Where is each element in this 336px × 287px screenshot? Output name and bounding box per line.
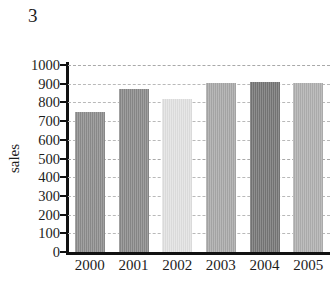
y-axis-tick <box>60 214 67 216</box>
gridline <box>68 84 330 85</box>
y-axis-tick <box>60 120 67 122</box>
x-axis-tick-label: 2003 <box>199 257 243 274</box>
bar-chart-figure: sales 01002003004005006007008009001000 2… <box>0 0 336 287</box>
y-axis-tick-label: 800 <box>0 95 60 110</box>
gridline <box>68 140 330 141</box>
x-axis-tick-label: 2002 <box>155 257 199 274</box>
x-axis-tick-labels: 200020012002200320042005 <box>68 257 330 283</box>
y-axis-tick-label: 500 <box>0 151 60 166</box>
gridline <box>68 159 330 160</box>
x-axis-tick-label: 2001 <box>112 257 156 274</box>
y-axis-tick <box>60 139 67 141</box>
bar <box>75 112 105 252</box>
x-axis-line <box>66 252 330 255</box>
y-axis-tick <box>60 176 67 178</box>
plot-area <box>68 65 330 252</box>
y-axis-tick-label: 100 <box>0 226 60 241</box>
y-axis-tick-label: 600 <box>0 133 60 148</box>
y-axis-tick <box>60 251 67 253</box>
bar <box>293 83 323 252</box>
gridline <box>68 177 330 178</box>
y-axis-tick <box>60 232 67 234</box>
y-axis-tick-label: 1000 <box>0 58 60 73</box>
x-axis-tick-label: 2000 <box>68 257 112 274</box>
bar <box>250 82 280 252</box>
y-axis-tick-labels: 01002003004005006007008009001000 <box>0 0 60 287</box>
y-axis-tick-label: 400 <box>0 170 60 185</box>
bar <box>206 83 236 252</box>
y-axis-tick-label: 200 <box>0 207 60 222</box>
y-axis-tick <box>60 64 67 66</box>
gridline <box>68 233 330 234</box>
x-axis-tick-label: 2004 <box>243 257 287 274</box>
y-axis-tick <box>60 195 67 197</box>
y-axis-tick <box>60 158 67 160</box>
y-axis-tick-label: 700 <box>0 114 60 129</box>
gridline <box>68 215 330 216</box>
y-axis-tick <box>60 83 67 85</box>
gridline <box>68 121 330 122</box>
bar <box>119 89 149 252</box>
y-axis-tick <box>60 101 67 103</box>
gridline <box>68 196 330 197</box>
y-axis-tick-label: 0 <box>0 245 60 260</box>
y-axis-tick-label: 900 <box>0 76 60 91</box>
y-axis-tick-label: 300 <box>0 189 60 204</box>
gridline <box>68 65 330 66</box>
bar <box>162 99 192 252</box>
x-axis-tick-label: 2005 <box>286 257 330 274</box>
gridline <box>68 102 330 103</box>
